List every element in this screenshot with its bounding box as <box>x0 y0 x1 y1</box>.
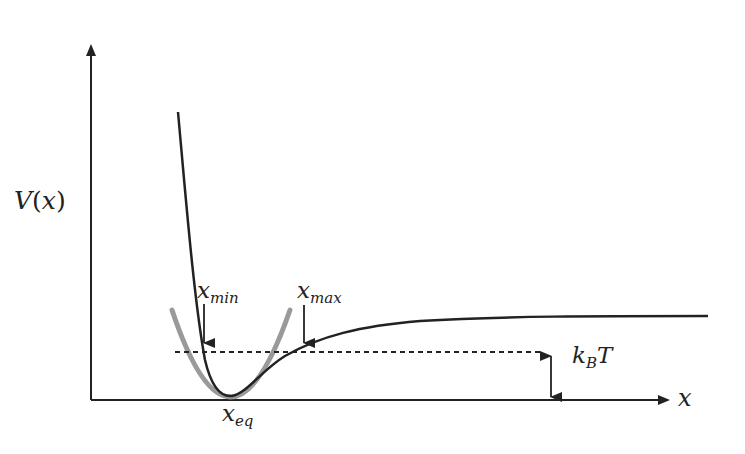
y-label-v: V <box>14 186 32 215</box>
kbt-label: kBT <box>572 342 612 372</box>
y-label-paren-open: ( <box>32 186 42 215</box>
y-label-paren-close: ) <box>56 186 66 215</box>
x-eq-label: xeq <box>222 400 253 430</box>
x-axis-label: x <box>678 384 692 412</box>
potential-diagram <box>0 0 745 454</box>
x-max-label: xmax <box>297 277 342 307</box>
x-min-label: xmin <box>197 277 239 307</box>
x-max-sub: max <box>310 289 342 307</box>
x-min-sub: min <box>210 289 239 307</box>
kbt-t: T <box>597 342 612 368</box>
y-label-arg: x <box>42 186 56 215</box>
potential-curve <box>178 112 708 396</box>
x-label-text: x <box>678 384 692 412</box>
y-axis-label: V(x) <box>14 186 66 215</box>
x-min-base: x <box>197 277 210 303</box>
harmonic-parabola <box>172 310 290 397</box>
x-eq-base: x <box>222 400 235 426</box>
kbt-sub: B <box>586 354 597 372</box>
x-eq-sub: eq <box>235 412 253 430</box>
kbt-k: k <box>572 342 586 368</box>
x-max-base: x <box>297 277 310 303</box>
